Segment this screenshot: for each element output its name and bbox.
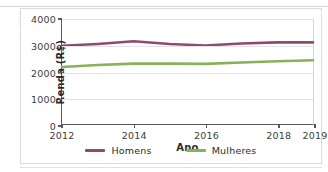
y-tick-mark <box>58 99 62 100</box>
bottom-divider <box>20 167 322 168</box>
chart-card: Renda (R$) Ano 0100020003000400020122014… <box>20 8 322 164</box>
x-tick-mark <box>61 124 62 128</box>
gridline-y <box>62 19 313 20</box>
y-tick-label: 4000 <box>31 14 56 25</box>
y-tick-label: 2000 <box>31 67 56 78</box>
x-tick-mark <box>314 124 315 128</box>
legend-item-mulheres[interactable]: Mulheres <box>186 145 257 156</box>
x-tick-label: 2012 <box>50 130 75 141</box>
chart-legend: HomensMulheres <box>21 145 321 156</box>
cropped-title <box>0 0 328 5</box>
y-tick-label: 1000 <box>31 94 56 105</box>
legend-swatch-icon <box>186 149 206 152</box>
top-divider <box>0 6 328 7</box>
legend-label: Mulheres <box>212 145 257 156</box>
x-tick-label: 2018 <box>266 130 291 141</box>
x-tick-label: 2014 <box>122 130 147 141</box>
x-tick-label: 2016 <box>194 130 219 141</box>
x-tick-label: 2019 <box>303 130 328 141</box>
x-tick-mark <box>206 124 207 128</box>
legend-label: Homens <box>111 145 151 156</box>
y-tick-mark <box>58 18 62 19</box>
legend-swatch-icon <box>85 149 105 152</box>
chart-figure: Adilson Secco/ID/BR Renda (R$) Ano 01000… <box>0 0 328 172</box>
gridline-y <box>62 46 313 47</box>
series-lines <box>62 19 313 124</box>
y-tick-mark <box>58 45 62 46</box>
x-tick-mark <box>278 124 279 128</box>
gridline-y <box>62 99 313 100</box>
gridline-y <box>62 73 313 74</box>
series-line-mulheres <box>62 60 313 67</box>
y-tick-label: 3000 <box>31 40 56 51</box>
legend-item-homens[interactable]: Homens <box>85 145 151 156</box>
plot-area: Renda (R$) Ano 0100020003000400020122014… <box>61 18 314 125</box>
x-tick-mark <box>134 124 135 128</box>
y-tick-mark <box>58 72 62 73</box>
